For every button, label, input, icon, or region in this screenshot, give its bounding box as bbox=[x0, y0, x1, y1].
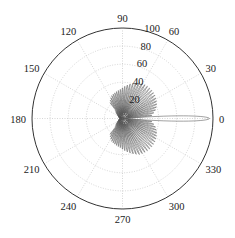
angular-tick-label: 300 bbox=[169, 201, 185, 212]
angular-tick-labels: 0306090120150180210240270300330 bbox=[10, 13, 224, 225]
angular-tick-label: 240 bbox=[61, 201, 77, 212]
radial-tick-label: 100 bbox=[144, 23, 160, 34]
radial-tick-label: 80 bbox=[141, 41, 152, 52]
polar-grid bbox=[32, 28, 213, 209]
polar-chart: 20406080100 0306090120150180210240270300… bbox=[0, 0, 235, 238]
angular-tick-label: 60 bbox=[169, 26, 180, 37]
radial-tick-label: 20 bbox=[129, 94, 140, 105]
angular-tick-label: 210 bbox=[24, 164, 40, 175]
angular-tick-label: 180 bbox=[10, 114, 26, 125]
angular-tick-label: 90 bbox=[117, 13, 128, 24]
radial-tick-label: 60 bbox=[137, 58, 148, 69]
angular-tick-label: 330 bbox=[206, 164, 222, 175]
radial-tick-label: 40 bbox=[133, 76, 144, 87]
angular-tick-label: 30 bbox=[206, 63, 217, 74]
angular-tick-label: 0 bbox=[219, 114, 224, 125]
angular-tick-label: 150 bbox=[24, 63, 40, 74]
angular-tick-label: 270 bbox=[115, 214, 131, 225]
angular-tick-label: 120 bbox=[61, 26, 77, 37]
